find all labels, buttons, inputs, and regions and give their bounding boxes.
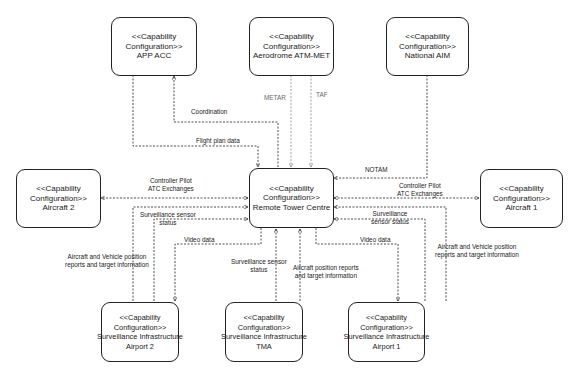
node-name: Surveillance Infrastructure [221, 332, 307, 342]
label-cpdlc-left: Controller Pilot ATC Exchanges [148, 177, 194, 192]
node-name: Surveillance Infrastructure [97, 332, 183, 342]
node-name-line2: Airport 1 [373, 342, 401, 352]
node-name-line2: TMA [256, 342, 272, 352]
node-app-acc[interactable]: <<Capability Configuration>> APP ACC [111, 17, 197, 76]
label-taf: TAF [316, 91, 328, 99]
stereotype-line2: Configuration>> [126, 42, 183, 52]
label-line: Aircraft position reports [293, 264, 359, 271]
label-line: reports and target information [65, 261, 149, 268]
label-surv-status-tma: Surveillance sensor status [231, 258, 287, 273]
stereotype-line2: Configuration>> [399, 42, 456, 52]
label-line: reports and target information [435, 251, 519, 258]
node-name: Aircraft 1 [505, 203, 537, 213]
label-line: Aircraft and Vehicle position [437, 243, 516, 250]
label-pos-right: Aircraft and Vehicle position reports an… [435, 243, 519, 258]
label-coordination: Coordination [191, 108, 227, 116]
node-surv-airport-1[interactable]: <<Capability Configuration>> Surveillanc… [348, 302, 425, 362]
label-line: Surveillance sensor [140, 211, 196, 218]
node-aerodrome-atm-met[interactable]: <<Capability Configuration>> Aerodrome A… [249, 17, 334, 76]
node-aircraft-1[interactable]: <<Capability Configuration>> Aircraft 1 [480, 169, 563, 228]
stereotype-line2: Configuration>> [263, 193, 320, 203]
label-cpdlc-right: Controller Pilot ATC Exchanges [397, 182, 443, 197]
stereotype: <<Capability [269, 32, 313, 42]
node-surv-airport-2[interactable]: <<Capability Configuration>> Surveillanc… [101, 302, 179, 362]
label-line: status [159, 219, 176, 226]
stereotype: <<Capability [366, 313, 407, 323]
label-line: and target information [295, 272, 357, 279]
label-pos-tma: Aircraft position reports and target inf… [293, 264, 359, 279]
label-metar: METAR [264, 94, 286, 102]
node-name: Surveillance Infrastructure [344, 332, 430, 342]
label-line: Controller Pilot [150, 177, 192, 184]
label-flight-plan-data: Flight plan data [196, 137, 240, 145]
node-remote-tower-centre[interactable]: <<Capability Configuration>> Remote Towe… [249, 168, 334, 228]
node-name: National AIM [405, 51, 450, 61]
stereotype: <<Capability [36, 184, 80, 194]
label-surv-status-right: Surveillance sensor status [371, 210, 409, 225]
stereotype: <<Capability [119, 313, 160, 323]
label-line: status [250, 266, 267, 273]
label-pos-left: Aircraft and Vehicle position reports an… [65, 253, 149, 268]
stereotype: <<Capability [243, 313, 284, 323]
stereotype-line2: Configuration>> [360, 323, 413, 333]
node-name-line2: Airport 2 [126, 342, 154, 352]
label-line: sensor status [371, 218, 409, 225]
node-name: Aircraft 2 [42, 203, 74, 213]
stereotype-line2: Configuration>> [30, 194, 87, 204]
label-line: Surveillance sensor [231, 258, 287, 265]
stereotype: <<Capability [269, 184, 313, 194]
label-line: Controller Pilot [399, 182, 441, 189]
stereotype-line2: Configuration>> [238, 323, 291, 333]
stereotype: <<Capability [132, 32, 176, 42]
edge-coordination [174, 76, 278, 167]
node-national-aim[interactable]: <<Capability Configuration>> National AI… [386, 17, 469, 76]
label-line: Surveillance [373, 210, 408, 217]
stereotype-line2: Configuration>> [493, 194, 550, 204]
stereotype: <<Capability [405, 32, 449, 42]
edge-surv-status-airport-1 [334, 219, 425, 301]
label-surv-status-left: Surveillance sensor status [140, 211, 196, 226]
stereotype-line2: Configuration>> [114, 323, 167, 333]
stereotype-line2: Configuration>> [263, 42, 320, 52]
label-notam: NOTAM [365, 166, 388, 174]
label-line: ATC Exchanges [397, 190, 443, 197]
label-line: Aircraft and Vehicle position [67, 253, 146, 260]
label-video-left: Video data [184, 236, 214, 244]
edge-notam [334, 75, 427, 178]
node-name: Aerodrome ATM-MET [253, 51, 330, 61]
label-line: ATC Exchanges [148, 185, 194, 192]
node-surv-tma[interactable]: <<Capability Configuration>> Surveillanc… [225, 302, 303, 362]
node-name: APP ACC [137, 51, 172, 61]
label-video-right: Video data [360, 236, 390, 244]
stereotype: <<Capability [499, 184, 543, 194]
node-name: Remote Tower Centre [253, 203, 331, 213]
node-aircraft-2[interactable]: <<Capability Configuration>> Aircraft 2 [16, 169, 101, 228]
edge-flight-plan-data [133, 75, 258, 167]
